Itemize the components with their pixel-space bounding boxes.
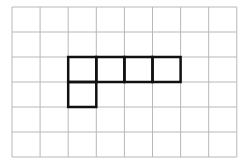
- shape-cell: [68, 82, 96, 107]
- shape-cell: [153, 57, 181, 82]
- shape-cell: [68, 57, 96, 82]
- shape-cell: [96, 57, 124, 82]
- grid-diagram: [0, 0, 241, 162]
- shape-cell: [124, 57, 152, 82]
